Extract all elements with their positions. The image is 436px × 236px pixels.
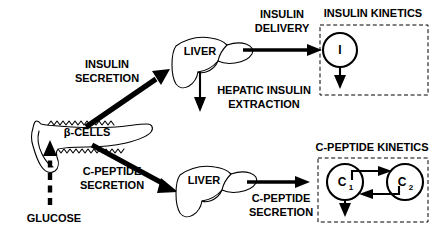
glucose-label: GLUCOSE [27,212,81,224]
insulin-kinetics-title: INSULIN KINETICS [324,7,422,19]
liver-bottom-organ: LIVER [176,166,257,216]
cpeptide-compartment-1-subscript: 1 [349,183,354,192]
liver-top-label: LIVER [184,45,216,57]
cpeptide-secretion-right-label-line2: SECRETION [249,206,313,218]
cpeptide-compartment-2-subscript: 2 [409,183,414,192]
cpeptide-elimination-arrow-head [339,203,351,217]
cpeptide-secretion-right-label-line1: C-PEPTIDE [252,192,311,204]
pancreas-texture-top [48,121,114,125]
insulin-delivery-arrow [243,44,322,56]
insulin-delivery-label-line1: INSULIN [260,8,304,20]
diagram-canvas: β-CELLS GLUCOSE INSULIN SECRETION LIVER … [0,0,436,236]
insulin-elimination-arrow [334,67,346,89]
cpeptide-kinetics-title: C-PEPTIDE KINETICS [315,141,428,153]
cpeptide-compartment-1-label: C [338,175,347,189]
insulin-compartment-label: I [338,43,341,57]
insulin-secretion-label-line2: SECRETION [75,72,139,84]
insulin-cpeptide-model-diagram: β-CELLS GLUCOSE INSULIN SECRETION LIVER … [0,0,436,236]
cpeptide-elimination-arrow [339,200,351,217]
insulin-secretion-shaft [86,79,156,127]
cpeptide-secretion-left-label-line2: SECRETION [80,179,144,191]
hepatic-extraction-label-line2: EXTRACTION [228,98,300,110]
liver-top-organ: LIVER [172,37,253,87]
hepatic-extraction-arrow-head [194,97,206,112]
insulin-delivery-label-line2: DELIVERY [255,22,310,34]
cpeptide-delivery-arrow-head [295,176,310,188]
cpeptide-compartment-1-node: C 1 [327,164,363,200]
insulin-compartment-node: I [323,33,357,67]
insulin-elimination-arrow-head [334,75,346,89]
liver-bottom-label: LIVER [188,174,220,186]
cpeptide-secretion-left-label-line1: C-PEPTIDE [83,165,142,177]
pancreas-texture-bottom [58,149,124,153]
insulin-secretion-label-line1: INSULIN [85,58,129,70]
hepatic-extraction-label-line1: HEPATIC INSULIN [217,84,311,96]
